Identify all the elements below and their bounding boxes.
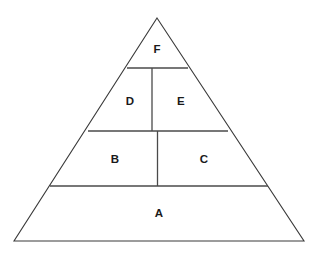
section-label-b: B bbox=[111, 153, 120, 165]
pyramid-canvas: A B C D E F bbox=[0, 0, 322, 255]
section-label-c: C bbox=[200, 153, 209, 165]
section-label-d: D bbox=[126, 95, 135, 107]
section-label-e: E bbox=[177, 95, 185, 107]
pyramid-diagram: A B C D E F bbox=[0, 0, 322, 255]
section-label-f: F bbox=[153, 43, 160, 55]
section-label-a: A bbox=[155, 207, 164, 219]
